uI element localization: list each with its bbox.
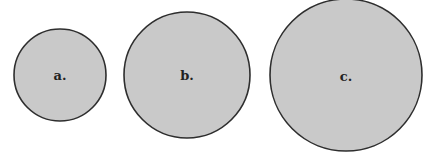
- circle-a-group: a.: [14, 29, 106, 121]
- circles-diagram: a. b. c.: [0, 0, 432, 156]
- circle-c-group: c.: [270, 0, 422, 151]
- circle-c-label: c.: [340, 69, 352, 84]
- circle-b-group: b.: [124, 12, 250, 138]
- circle-a-label: a.: [54, 68, 67, 83]
- circle-b-label: b.: [180, 68, 194, 83]
